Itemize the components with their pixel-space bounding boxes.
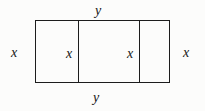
label-x-right: x (183, 46, 189, 60)
label-x-inner-2: x (127, 47, 133, 61)
label-x-left: x (11, 46, 17, 60)
vertical-divider-1 (78, 20, 79, 83)
label-x-inner-1: x (66, 47, 72, 61)
label-y-bottom: y (93, 91, 99, 105)
geometry-figure: y y x x x x (0, 0, 205, 111)
label-y-top: y (95, 4, 101, 18)
vertical-divider-2 (139, 20, 140, 83)
outer-rectangle (35, 20, 170, 83)
